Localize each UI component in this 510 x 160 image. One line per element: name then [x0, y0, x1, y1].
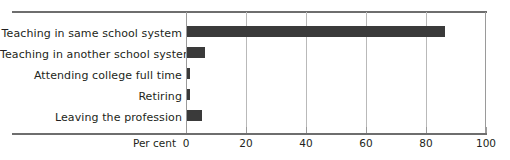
x-tick-label-80: 80	[419, 138, 432, 149]
axis-tick-60	[366, 127, 367, 133]
bar-teaching-another-school-system	[187, 47, 205, 58]
axis-tick-20	[246, 127, 247, 133]
category-label: Retiring	[0, 91, 182, 102]
bar-retiring	[187, 89, 190, 100]
x-tick-label-100: 100	[476, 138, 496, 149]
x-tick-label-20: 20	[239, 138, 252, 149]
x-tick-label-60: 60	[359, 138, 372, 149]
bar-teaching-same-school-system	[187, 26, 445, 37]
bar-attending-college-full-time	[187, 68, 190, 79]
axis-tick-0	[186, 127, 187, 133]
plot-area	[186, 12, 486, 133]
axis-tick-40	[306, 127, 307, 133]
axis-tick-80	[426, 127, 427, 133]
gridline-100	[485, 12, 486, 133]
bar-leaving-the-profession	[187, 110, 202, 121]
axis-tick-100	[486, 127, 487, 133]
x-axis-title: Per cent	[133, 138, 176, 149]
x-tick-label-0: 0	[183, 138, 190, 149]
category-label: Leaving the profession	[0, 112, 182, 123]
bar-chart: Teaching in same school system Teaching …	[0, 0, 510, 160]
category-label-column: Teaching in same school system Teaching …	[0, 0, 182, 133]
category-label: Teaching in same school system	[0, 28, 182, 39]
category-label: Attending college full time	[0, 70, 182, 81]
category-label: Teaching in another school system	[0, 49, 182, 60]
chart-bottom-rule	[12, 133, 487, 135]
x-tick-label-40: 40	[299, 138, 312, 149]
